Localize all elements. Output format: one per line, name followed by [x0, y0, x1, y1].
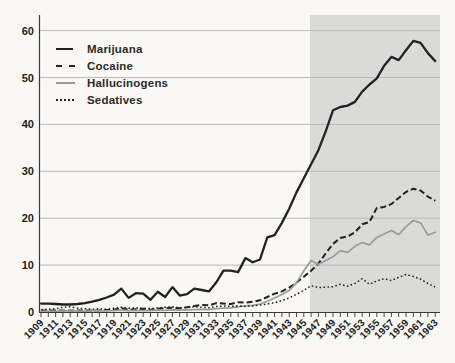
legend-item-hallucinogens: Hallucinogens	[56, 74, 168, 91]
legend-swatch-box	[56, 65, 80, 67]
legend-item-cocaine: Cocaine	[56, 57, 168, 74]
solid-line-sample-icon	[56, 48, 73, 50]
legend-label-cocaine: Cocaine	[87, 60, 133, 72]
legend-swatch-box	[56, 48, 80, 50]
chart-figure: 0102030405060190919111913191519171919192…	[0, 0, 455, 363]
legend-item-sedatives: Sedatives	[56, 91, 168, 108]
legend-label-hallucinogens: Hallucinogens	[87, 77, 168, 89]
y-tick-label: 40	[22, 118, 34, 130]
legend-label-marijuana: Marijuana	[87, 43, 142, 55]
y-tick-label: 50	[22, 72, 34, 84]
gray-line-sample-icon	[56, 82, 75, 84]
legend-swatch-box	[56, 99, 80, 101]
y-tick-label: 60	[22, 25, 34, 37]
y-tick-label: 20	[22, 212, 34, 224]
legend-item-marijuana: Marijuana	[56, 40, 168, 57]
legend-swatch-box	[56, 82, 80, 84]
y-tick-label: 30	[22, 165, 34, 177]
y-tick-label: 10	[22, 259, 34, 271]
legend-label-sedatives: Sedatives	[87, 94, 143, 106]
shaded-region	[310, 15, 440, 312]
dashed-line-sample-icon	[56, 65, 75, 67]
chart-legend: Marijuana Cocaine Hallucinogens Sedative…	[56, 40, 168, 108]
y-tick-label: 0	[28, 306, 34, 318]
dotted-line-sample-icon	[56, 99, 74, 101]
